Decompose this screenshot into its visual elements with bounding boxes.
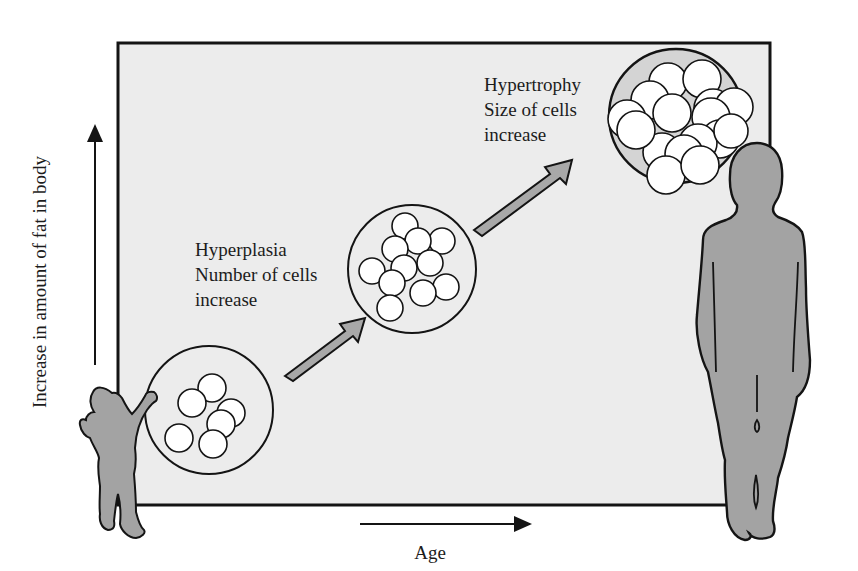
hyperplasia-label: Hyperplasia Number of cells increase (195, 237, 317, 312)
y-axis-label: Increase in amount of fat in body (29, 156, 51, 408)
hypertrophy-label: Hypertrophy Size of cells increase (484, 72, 581, 147)
hyperplasia-desc-line2: increase (195, 287, 317, 312)
hyperplasia-title: Hyperplasia (195, 237, 317, 262)
hyperplasia-fat-cluster (348, 205, 476, 333)
hyperplasia-desc-line1: Number of cells (195, 262, 317, 287)
hypertrophy-desc-line2: increase (484, 122, 581, 147)
fat-cell-diagram (0, 0, 858, 571)
infant-fat-cluster (145, 346, 273, 474)
hypertrophy-title: Hypertrophy (484, 72, 581, 97)
hypertrophy-desc-line1: Size of cells (484, 97, 581, 122)
x-axis-label: Age (414, 542, 446, 564)
